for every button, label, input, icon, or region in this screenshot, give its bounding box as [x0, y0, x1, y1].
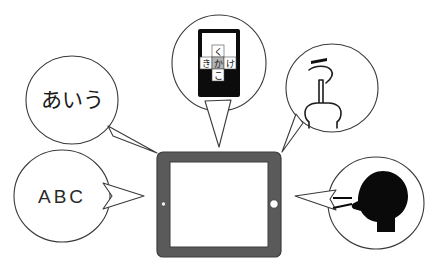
diagram-canvas: あいう く き か [0, 0, 438, 269]
voice-input-bubble[interactable] [295, 157, 424, 249]
flick-key-right[interactable]: け [224, 57, 236, 69]
tablet-home-button[interactable] [270, 200, 278, 208]
flick-keyboard-bubble[interactable]: く き か け こ [172, 15, 266, 147]
flick-key-left-glyph: き [202, 59, 211, 69]
tablet-screen[interactable] [170, 162, 268, 247]
handwriting-bubble[interactable] [282, 44, 378, 152]
flick-phone: く き か け こ [198, 29, 240, 97]
voice-input-bubble-tail [295, 190, 336, 210]
flick-key-center-glyph: か [214, 59, 223, 69]
alphabet-bubble[interactable]: ABC [14, 150, 144, 242]
tablet-camera-dot [161, 202, 165, 206]
flick-key-center[interactable]: か [212, 57, 224, 69]
kana-text-bubble-tail [108, 126, 157, 153]
alphabet-bubble-label: ABC [38, 186, 86, 207]
handwriting-bubble-tail [282, 114, 303, 152]
tablet[interactable] [157, 152, 281, 257]
kana-text-bubble[interactable]: あいう [26, 56, 157, 153]
diagram-svg: あいう く き か [0, 0, 438, 269]
flick-key-up-glyph: く [214, 47, 223, 57]
flick-key-right-glyph: け [226, 59, 235, 69]
flick-keyboard-bubble-tail [205, 100, 231, 147]
flick-key-left[interactable]: き [200, 57, 212, 69]
flick-key-up[interactable]: く [212, 45, 224, 57]
flick-key-down[interactable]: こ [212, 69, 224, 81]
kana-text-bubble-label: あいう [41, 88, 104, 112]
flick-key-down-glyph: こ [214, 71, 223, 81]
